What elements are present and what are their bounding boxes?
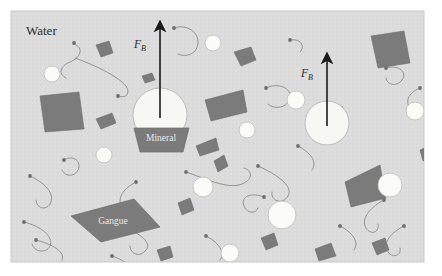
air-bubble <box>221 244 239 262</box>
surfactant-head-dot <box>184 170 188 174</box>
surfactant-head-dot <box>384 66 388 70</box>
air-bubble <box>406 102 424 120</box>
flotation-diagram-figure: FBFB MineralGangue Water <box>0 0 442 276</box>
air-bubble <box>193 177 213 197</box>
air-bubble <box>378 173 402 197</box>
air-bubble <box>287 91 305 109</box>
mineral-attached-left-label: Mineral <box>146 133 176 143</box>
force-subscript: B <box>308 73 313 82</box>
surfactant-head-dot <box>134 180 138 184</box>
surfactant-head-dot <box>22 220 26 224</box>
surfactant-head-dot <box>172 26 176 30</box>
surfactant-head-dot <box>72 41 76 45</box>
diagram-canvas: FBFB MineralGangue Water <box>0 0 442 276</box>
surfactant-head-dot <box>382 198 386 202</box>
surfactant-head-dot <box>418 86 422 90</box>
air-bubble <box>96 147 112 163</box>
gangue-fragment <box>40 92 84 132</box>
surfactant-head-dot <box>204 234 208 238</box>
surfactant-head-dot <box>28 174 32 178</box>
air-bubble <box>239 122 255 138</box>
surfactant-head-dot <box>262 195 266 199</box>
surfactant-head-dot <box>402 224 406 228</box>
air-bubble <box>44 66 60 82</box>
surfactant-head-dot <box>116 94 120 98</box>
surfactant-head-dot <box>110 254 114 258</box>
surfactant-head-dot <box>288 38 292 42</box>
surfactant-head-dot <box>256 164 260 168</box>
gangue-fragment <box>371 31 410 68</box>
air-bubble <box>268 201 296 229</box>
surfactant-head-dot <box>338 224 342 228</box>
water-label: Water <box>26 23 57 38</box>
surfactant-head-dot <box>264 86 268 90</box>
surfactant-head-dot <box>62 158 66 162</box>
surfactant-head-dot <box>34 238 38 242</box>
air-bubble <box>205 35 221 51</box>
force-subscript: B <box>141 44 146 53</box>
surfactant-head-dot <box>296 144 300 148</box>
gangue-rhombus-label: Gangue <box>98 216 128 226</box>
